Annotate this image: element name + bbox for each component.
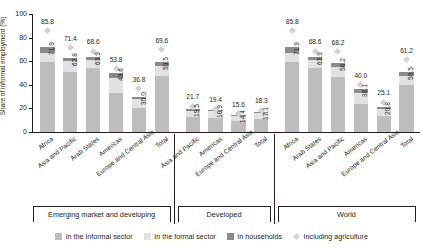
y-tick-label: 60 (5, 57, 27, 64)
legend-swatch-icon (55, 233, 62, 240)
group-separator (174, 134, 175, 224)
including-agriculture-value: 61.2 (394, 47, 420, 54)
informal-segment (377, 116, 391, 132)
informal-segment (86, 68, 100, 132)
including-agriculture-value: 40.0 (348, 72, 374, 79)
group-frame (178, 206, 270, 207)
informal-segment (63, 72, 77, 132)
bar-total-value: 63.9 (94, 52, 101, 65)
y-tick-label: 0 (5, 128, 27, 135)
group-edge (170, 206, 171, 222)
bar-total-value: 50.5 (407, 68, 414, 81)
legend-diamond-icon (293, 233, 300, 240)
y-tick-label: 100 (5, 10, 27, 17)
group-edge (278, 206, 279, 222)
bar-total-value: 62.8 (71, 53, 78, 66)
including-agriculture-marker (67, 44, 74, 51)
group-label: Emerging market and developing (33, 210, 170, 219)
including-agriculture-marker (334, 48, 341, 55)
including-agriculture-value: 53.8 (103, 56, 129, 63)
bar-total-value: 71.9 (48, 42, 55, 55)
bar-total-value: 18.9 (216, 105, 223, 118)
legend-label: Including agriculture (304, 232, 368, 241)
legend-label: In the informal sector (66, 232, 133, 241)
y-axis-label: Share of informal employment (%) (0, 0, 11, 132)
group-edge (415, 206, 416, 222)
informal-segment (155, 76, 169, 132)
bar (331, 63, 345, 132)
including-agriculture-value: 18.3 (248, 97, 274, 104)
informal-segment (109, 93, 123, 132)
including-agriculture-marker (289, 27, 296, 34)
including-agriculture-value: 85.8 (279, 18, 305, 25)
bar (308, 57, 322, 132)
bar-total-value: 30.0 (140, 92, 147, 105)
group-label: Developed (178, 210, 270, 219)
y-axis-line (32, 14, 33, 133)
group-edge (33, 206, 34, 222)
informal-segment (308, 68, 322, 132)
informal-segment (132, 108, 146, 132)
bar (285, 47, 299, 132)
including-agriculture-value: 69.6 (149, 37, 175, 44)
informal-segment (399, 85, 413, 132)
bar-total-value: 14.4 (239, 110, 246, 123)
including-agriculture-value: 68.2 (325, 39, 351, 46)
legend-item: In households (227, 232, 282, 241)
informal-employment-chart: Share of informal employment (%) 0204060… (0, 0, 423, 252)
bar-total-value: 49.6 (117, 69, 124, 82)
informal-segment (354, 104, 368, 132)
bar-total-value: 19.5 (193, 104, 200, 117)
informal-segment (254, 119, 268, 132)
chart-legend: In the informal sectorIn the formal sect… (0, 232, 423, 241)
informal-segment (40, 62, 54, 132)
including-agriculture-value: 85.8 (34, 18, 60, 25)
legend-label: In the formal sector (154, 232, 216, 241)
legend-swatch-icon (144, 233, 151, 240)
including-agriculture-value: 68.6 (80, 38, 106, 45)
bar-total-value: 20.8 (384, 103, 391, 116)
informal-segment (285, 62, 299, 132)
group-edge (178, 206, 179, 222)
including-agriculture-marker (403, 56, 410, 63)
group-label: World (278, 210, 415, 219)
bar-total-value: 71.9 (293, 42, 300, 55)
y-tick-label: 80 (5, 34, 27, 41)
legend-item: In the formal sector (144, 232, 216, 241)
including-agriculture-marker (158, 46, 165, 53)
bar (86, 57, 100, 132)
bar-total-value: 59.5 (162, 57, 169, 70)
including-agriculture-value: 25.1 (371, 89, 397, 96)
group-separator (274, 134, 275, 224)
bar (63, 58, 77, 132)
legend-swatch-icon (227, 233, 234, 240)
bar (109, 73, 123, 132)
group-frame (33, 206, 170, 207)
group-frame (278, 206, 415, 207)
informal-segment (186, 117, 200, 132)
bar (40, 47, 54, 132)
legend-item: Including agriculture (293, 232, 368, 241)
group-edge (270, 206, 271, 222)
informal-segment (331, 77, 345, 132)
y-tick-label: 20 (5, 104, 27, 111)
bar-total-value: 63.9 (316, 52, 323, 65)
x-axis-line (32, 132, 420, 133)
including-agriculture-value: 36.8 (126, 76, 152, 83)
bar-total-value: 58.2 (339, 58, 346, 71)
y-tick-label: 40 (5, 81, 27, 88)
legend-item: In the informal sector (55, 232, 133, 241)
legend-label: In households (237, 232, 282, 241)
bar (399, 72, 413, 132)
including-agriculture-marker (44, 27, 51, 34)
bar-total-value: 36.1 (361, 85, 368, 98)
bar-total-value: 17.1 (262, 107, 269, 120)
informal-segment (208, 118, 222, 132)
bar (155, 62, 169, 132)
